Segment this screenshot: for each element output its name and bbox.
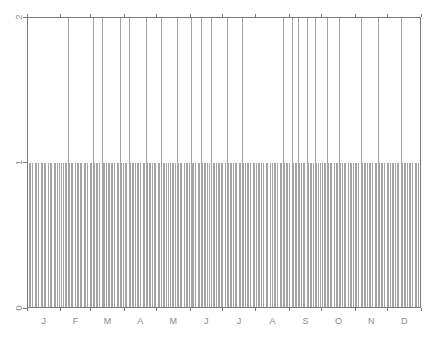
y-tick-label: 1 [14, 160, 24, 165]
y-tick-label: 0 [14, 305, 24, 310]
x-tick-label-month: N [368, 316, 375, 326]
x-tick-label-month: S [302, 316, 308, 326]
daily-count-impulse-chart: 012JFMAMJJASOND [0, 0, 436, 337]
x-tick-label-month: O [335, 316, 342, 326]
x-tick-label-month: D [401, 316, 408, 326]
x-tick-label-month: M [170, 316, 178, 326]
x-tick-label-month: J [41, 316, 46, 326]
plot-frame [28, 18, 421, 308]
x-tick-label-month: M [104, 316, 112, 326]
x-tick-label-month: A [270, 316, 276, 326]
y-tick-label: 2 [14, 14, 24, 19]
axis-frame [28, 18, 421, 308]
chart-figure: 012JFMAMJJASOND [0, 0, 436, 337]
x-tick-label-month: J [237, 316, 242, 326]
x-tick-label-month: A [137, 316, 143, 326]
x-tick-label-month: J [204, 316, 209, 326]
x-tick-label-month: F [73, 316, 79, 326]
impulse-series [28, 17, 421, 308]
